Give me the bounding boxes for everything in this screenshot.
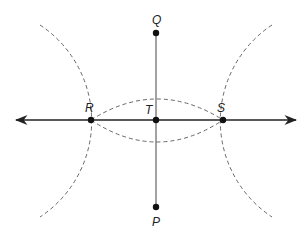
point-q	[153, 30, 159, 36]
lower-lens-arc	[91, 120, 223, 142]
label-r: R	[85, 101, 94, 115]
point-t	[153, 117, 159, 123]
label-s: S	[217, 101, 225, 115]
geometry-diagram: Q P T R S	[0, 0, 308, 236]
point-s	[220, 117, 226, 123]
point-p	[153, 204, 159, 210]
label-q: Q	[152, 13, 161, 27]
label-t: T	[145, 103, 154, 117]
right-construction-arc	[220, 25, 272, 217]
label-p: P	[152, 215, 160, 229]
left-construction-arc	[40, 25, 92, 217]
point-r	[88, 117, 94, 123]
upper-lens-arc	[91, 99, 223, 120]
